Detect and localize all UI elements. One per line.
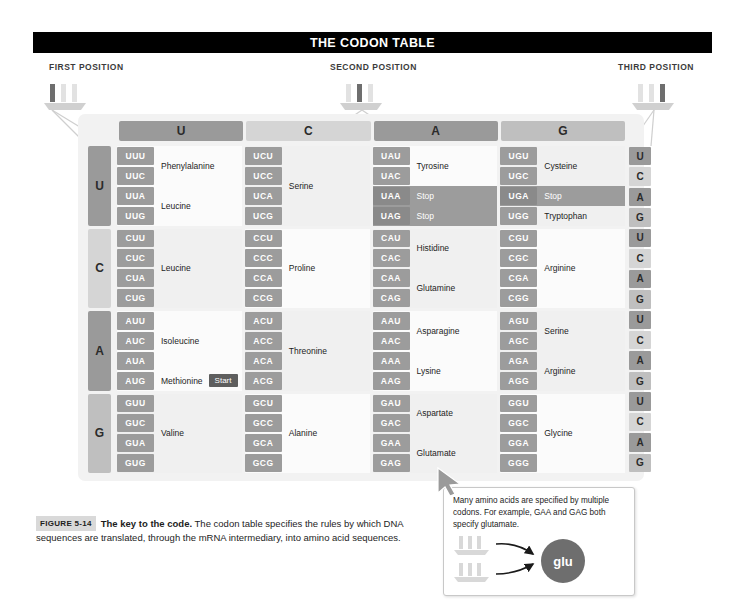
third-position-cell-1: C bbox=[629, 167, 651, 185]
codon-cell-uu: UUUUUCPhenylalanineUUAUUGLeucine bbox=[117, 146, 242, 226]
codon-cell-ac: ACUACCACAACGThreonine bbox=[245, 311, 370, 391]
table-row: AGU bbox=[500, 311, 625, 331]
table-row: CGA bbox=[500, 268, 625, 288]
table-row: AUA bbox=[117, 351, 242, 371]
table-row: CUC bbox=[117, 248, 242, 268]
table-row: UCC bbox=[245, 166, 370, 186]
codon-chip-cgg: CGG bbox=[500, 289, 537, 307]
table-row: AUU bbox=[117, 311, 242, 331]
codon-chip-cau: CAU bbox=[373, 230, 410, 248]
codon-chip-ccc: CCC bbox=[245, 249, 282, 267]
table-row: ACU bbox=[245, 311, 370, 331]
amino-acid-spacer bbox=[537, 288, 625, 308]
amino-acid-spacer bbox=[410, 248, 498, 268]
page-title: THE CODON TABLE bbox=[310, 36, 435, 50]
codon-chip-ugg: UGG bbox=[500, 207, 537, 225]
third-position-cell-7: G bbox=[629, 290, 651, 308]
table-row: UUU bbox=[117, 146, 242, 166]
amino-acid-label: Tryptophan bbox=[537, 206, 625, 226]
codon-cell-cu: CUUCUCCUACUGLeucine bbox=[117, 229, 242, 309]
codon-cell-cg: CGUCGCCGACGGArginine bbox=[500, 229, 625, 309]
amino-acid-spacer bbox=[410, 433, 498, 453]
codon-chip-uag: UAG bbox=[373, 207, 410, 225]
codon-chip-uac: UAC bbox=[373, 167, 410, 185]
table-row: AGC bbox=[500, 331, 625, 351]
amino-acid-spacer bbox=[282, 433, 370, 453]
amino-acid-spacer bbox=[410, 229, 498, 249]
table-row: CGC bbox=[500, 248, 625, 268]
amino-acid-label: Stop bbox=[410, 206, 498, 226]
codon-cell-ga: GAUGACAspartateGAAGAGGlutamate bbox=[373, 394, 498, 474]
table-row: GAA bbox=[373, 433, 498, 453]
amino-acid-spacer bbox=[282, 268, 370, 288]
codon-chip-ccu: CCU bbox=[245, 230, 282, 248]
amino-acid-spacer bbox=[154, 331, 242, 351]
table-row: ACC bbox=[245, 331, 370, 351]
codon-chip-ccg: CCG bbox=[245, 289, 282, 307]
codon-chip-aug: AUG bbox=[117, 372, 154, 390]
amino-acid-spacer bbox=[154, 186, 242, 206]
codon-chip-ucg: UCG bbox=[245, 207, 282, 225]
amino-acid-spacer bbox=[282, 394, 370, 414]
amino-acid-spacer bbox=[282, 186, 370, 206]
codon-chip-ugu: UGU bbox=[500, 147, 537, 165]
amino-acid-spacer bbox=[282, 229, 370, 249]
table-row: UCU bbox=[245, 146, 370, 166]
table-row: AAC bbox=[373, 331, 498, 351]
amino-acid-spacer bbox=[154, 311, 242, 331]
callout-pointer-icon bbox=[434, 466, 474, 496]
table-row: UUA bbox=[117, 186, 242, 206]
figure-number: FIGURE 5-14 bbox=[36, 516, 96, 531]
table-row: GCG bbox=[245, 453, 370, 473]
codon-chip-uca: UCA bbox=[245, 187, 282, 205]
table-row: GAU bbox=[373, 394, 498, 414]
codon-chip-gcg: GCG bbox=[245, 454, 282, 472]
codon-chip-cgc: CGC bbox=[500, 249, 537, 267]
third-position-cell-8: U bbox=[629, 311, 651, 329]
third-position-cell-11: G bbox=[629, 372, 651, 390]
amino-acid-spacer bbox=[154, 288, 242, 308]
codon-bars-third-position-icon bbox=[631, 82, 675, 112]
start-badge: Start bbox=[209, 374, 238, 387]
amino-acid-spacer bbox=[537, 453, 625, 473]
third-position-cell-2: A bbox=[629, 188, 651, 206]
table-row: UGC bbox=[500, 166, 625, 186]
third-position-cell-13: C bbox=[629, 413, 651, 431]
amino-acid-spacer bbox=[537, 371, 625, 391]
codon-cell-gg: GGUGGCGGAGGGGlycine bbox=[500, 394, 625, 474]
callout-codon-icon-bottom bbox=[454, 563, 489, 582]
codon-chip-uuu: UUU bbox=[117, 147, 154, 165]
codon-chip-gcu: GCU bbox=[245, 395, 282, 413]
codon-chip-cuu: CUU bbox=[117, 230, 154, 248]
table-row: GUG bbox=[117, 453, 242, 473]
table-row: UAGStop bbox=[373, 206, 498, 226]
codon-chip-aca: ACA bbox=[245, 352, 282, 370]
second-position-header-row: UCAG bbox=[119, 121, 625, 141]
amino-acid-label: Stop bbox=[410, 186, 498, 206]
amino-acid-spacer bbox=[282, 311, 370, 331]
second-position-header-a: A bbox=[374, 121, 498, 141]
table-row: AGA bbox=[500, 351, 625, 371]
table-row: UAAStop bbox=[373, 186, 498, 206]
amino-acid-spacer bbox=[537, 146, 625, 166]
table-row: GUC bbox=[117, 413, 242, 433]
codon-cell-gc: GCUGCCGCAGCGAlanine bbox=[245, 394, 370, 474]
third-position-cell-10: A bbox=[629, 351, 651, 369]
codon-chip-cgu: CGU bbox=[500, 230, 537, 248]
codon-row-block-a: AUUAUCAUAIsoleucineAUGMethionineStartACU… bbox=[117, 311, 625, 391]
table-row: CAG bbox=[373, 288, 498, 308]
codon-cell-au: AUUAUCAUAIsoleucineAUGMethionineStart bbox=[117, 311, 242, 391]
table-row: GCU bbox=[245, 394, 370, 414]
third-position-cell-3: G bbox=[629, 208, 651, 226]
codon-chip-gua: GUA bbox=[117, 434, 154, 452]
second-position-header-c: C bbox=[246, 121, 370, 141]
callout-box: Many amino acids are specified by multip… bbox=[443, 487, 635, 596]
table-row: UUG bbox=[117, 206, 242, 226]
amino-acid-spacer bbox=[410, 351, 498, 371]
third-position-cell-4: U bbox=[629, 229, 651, 247]
codon-chip-uua: UUA bbox=[117, 187, 154, 205]
table-row: CCU bbox=[245, 229, 370, 249]
table-row: GGU bbox=[500, 394, 625, 414]
amino-acid-spacer bbox=[282, 371, 370, 391]
amino-acid-spacer bbox=[154, 394, 242, 414]
